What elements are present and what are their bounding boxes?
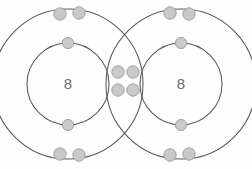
electron-left-outer-top-right (73, 7, 85, 19)
electron-left-outer-top-left (54, 8, 66, 20)
right-atom-nucleus-label: 8 (177, 75, 185, 92)
electron-left-inner-bottom (62, 119, 73, 130)
electron-right-inner-bottom (175, 119, 186, 130)
diagram-canvas: 8 8 (0, 0, 252, 169)
electron-right-outer-bottom-right (183, 148, 195, 160)
electron-left-outer-bottom-right (73, 149, 85, 161)
electron-left-outer-bottom-left (54, 148, 66, 160)
electron-right-inner-top (175, 37, 186, 48)
left-atom-nucleus-label: 8 (64, 75, 72, 92)
electron-left-inner-top (62, 37, 73, 48)
electron-shared-bottom-right (127, 84, 139, 96)
electron-right-outer-top-left (164, 7, 176, 19)
electron-right-outer-top-right (183, 8, 195, 20)
electron-shared-top-left (112, 66, 124, 78)
electron-right-outer-bottom-left (164, 149, 176, 161)
electron-shared-top-right (127, 66, 139, 78)
electron-shared-bottom-left (112, 84, 124, 96)
bohr-diagram-o2: 8 8 (0, 0, 252, 169)
